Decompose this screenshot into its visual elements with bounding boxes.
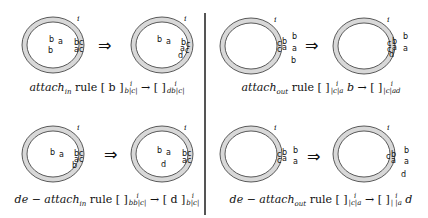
transition-arrow: ⇒ xyxy=(305,36,318,55)
object-inside: a xyxy=(59,150,64,159)
rule-name: de − attach xyxy=(15,193,80,206)
rule-rhs: [ ] xyxy=(154,81,166,94)
panel-attach-in: i b a b b c a c ⇒ i b a b c a c d attach… xyxy=(0,0,214,109)
membrane-before xyxy=(220,126,282,182)
rule-lhs: [ ] xyxy=(116,193,128,206)
rule-word: rule xyxy=(292,81,314,94)
rule-lhs-scripts: ibb|c| xyxy=(129,193,147,207)
panel-de-attach-in: i b a b c a c b ⇒ i b a d b c a c de − a… xyxy=(0,109,214,218)
rule-rhs-sub: db|c| xyxy=(167,88,185,95)
rule-lhs: [ ] xyxy=(318,81,330,94)
transition-arrow: ⇒ xyxy=(307,147,320,166)
object-outside: a xyxy=(292,44,297,53)
object-inside: a xyxy=(166,37,171,46)
rule-lhs-scripts: ib|c| xyxy=(124,81,137,95)
membrane-after xyxy=(333,18,395,74)
rule-lhs: [ b ] xyxy=(101,81,124,94)
rule-caption: de − attachout rule [ ]i|c|a → [ ]i| |a … xyxy=(214,193,428,207)
object-membrane: a xyxy=(282,154,287,163)
rule-lhs-sub: bb|c| xyxy=(129,200,147,207)
object-membrane: c xyxy=(277,45,281,54)
panel-de-attach-out: i c b c a b a ⇒ i c b a b a d de − attac… xyxy=(214,109,428,218)
rule-caption: attachout rule [ ]i|c|a b → [ ]i|c|ad xyxy=(214,81,428,95)
object-inside: b xyxy=(157,146,162,155)
object-inside: b xyxy=(48,46,53,55)
object-membrane: a xyxy=(391,156,396,165)
object-outside: b xyxy=(292,32,297,41)
rule-name: de − attach xyxy=(230,193,295,206)
transition-arrow: ⇒ xyxy=(104,145,117,164)
membrane-label: i xyxy=(387,123,390,132)
rule-rhs: [ d ] xyxy=(163,193,186,206)
object-outside: a xyxy=(293,157,298,166)
membrane-label: i xyxy=(184,123,187,132)
rule-subscript: in xyxy=(65,88,72,96)
rule-lhs-sub: |c|a xyxy=(349,200,362,207)
object-inside: a xyxy=(58,37,63,46)
rule-arrow: → xyxy=(365,193,374,206)
object-outside: b xyxy=(291,56,296,65)
rule-lhs-scripts: i|c|a xyxy=(331,81,344,95)
rule-trail: d xyxy=(405,193,412,206)
object-membrane: c xyxy=(277,156,281,165)
rule-arrow: → xyxy=(357,81,366,94)
rule-rhs: [ ] xyxy=(378,193,390,206)
rule-rhs-scripts: idb|c| xyxy=(167,81,185,95)
rule-word: rule xyxy=(310,193,332,206)
rule-arrow: → xyxy=(141,81,150,94)
object-membrane: c xyxy=(386,152,390,161)
object-outside: a xyxy=(403,44,408,53)
rule-lhs-trail: b xyxy=(347,81,354,94)
object-membrane: c xyxy=(185,46,189,55)
rule-rhs-sub: | |a xyxy=(391,200,402,207)
rule-name: attach xyxy=(30,81,65,94)
object-membrane: c xyxy=(79,155,83,164)
rule-subscript: in xyxy=(80,200,87,208)
membrane-label: i xyxy=(184,14,187,23)
rule-rhs-sub: b|c| xyxy=(186,200,199,207)
rule-lhs: [ ] xyxy=(336,193,348,206)
object-membrane: d xyxy=(178,51,183,60)
rule-word: rule xyxy=(90,193,112,206)
rule-rhs-sub: |c|ad xyxy=(383,88,400,95)
object-inside: b xyxy=(157,35,162,44)
membrane-label: i xyxy=(274,15,277,24)
membrane-label: i xyxy=(77,14,80,23)
object-membrane: d xyxy=(389,50,394,59)
membrane-label: i xyxy=(387,15,390,24)
rule-lhs-sub: |c|a xyxy=(331,88,344,95)
object-outside: b xyxy=(293,146,298,155)
panel-attach-out: i c b c a b a b ⇒ i c b c a d b a attach… xyxy=(214,0,428,109)
membrane-before xyxy=(220,18,282,74)
object-inside: b xyxy=(49,35,54,44)
membrane-label: i xyxy=(77,123,80,132)
rule-rhs: [ ] xyxy=(370,81,382,94)
object-outside: d xyxy=(401,170,406,179)
rule-lhs-sub: b|c| xyxy=(124,88,137,95)
rule-caption: de − attachin rule [ ]ibb|c| → [ d ]ib|c… xyxy=(0,193,214,207)
rule-lhs-scripts: i|c|a xyxy=(349,193,362,207)
membrane-label: i xyxy=(274,123,277,132)
object-membrane: a xyxy=(282,43,287,52)
object-membrane: c xyxy=(187,156,191,165)
object-outside: b xyxy=(403,32,408,41)
object-inside: a xyxy=(166,148,171,157)
rule-rhs-scripts: i|c|ad xyxy=(383,81,400,95)
rule-word: rule xyxy=(75,81,97,94)
rule-rhs-scripts: ib|c| xyxy=(186,193,199,207)
object-inside: b xyxy=(50,148,55,157)
object-outside: b xyxy=(404,146,409,155)
rule-subscript: out xyxy=(295,200,307,208)
rule-rhs-scripts: i| |a xyxy=(391,193,402,207)
rule-subscript: out xyxy=(277,88,289,96)
object-inside: d xyxy=(161,160,166,169)
rule-name: attach xyxy=(241,81,276,94)
object-outside: a xyxy=(404,157,409,166)
object-membrane: c xyxy=(79,45,83,54)
transition-arrow: ⇒ xyxy=(98,36,111,55)
rule-arrow: → xyxy=(150,193,159,206)
object-membrane: b xyxy=(72,161,77,170)
rule-caption: attachin rule [ b ]ib|c| → [ ]idb|c| xyxy=(0,81,214,95)
